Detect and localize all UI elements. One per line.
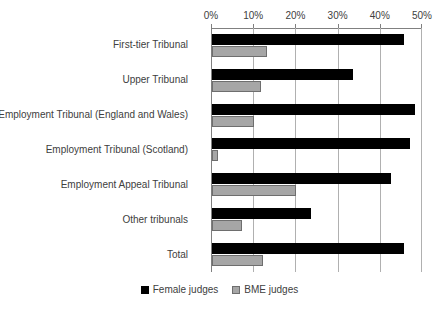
bar-group: Upper Tribunal — [211, 63, 422, 98]
x-axis-tick-50: 50% — [412, 10, 432, 22]
x-axis-tick-labels: 0% 10% 20% 30% 40% 50% — [211, 10, 422, 24]
bar-group: Total — [211, 237, 422, 272]
bar-female-judges — [212, 243, 404, 254]
bar-female-judges — [212, 173, 391, 184]
bar-bme-judges — [212, 46, 267, 57]
x-axis-tick-0: 0% — [204, 10, 218, 22]
x-axis-tick-20: 20% — [285, 10, 305, 22]
bar-female-judges — [212, 69, 353, 80]
bar-group: Other tribunals — [211, 202, 422, 237]
chart-legend: Female judges BME judges — [0, 284, 439, 296]
legend-swatch-icon-bme — [232, 286, 240, 294]
category-label: Employment Tribunal (Scotland) — [0, 144, 188, 156]
x-axis-tick-10: 10% — [243, 10, 263, 22]
category-label: Employment Appeal Tribunal — [0, 179, 188, 191]
x-axis-tick-40: 40% — [370, 10, 390, 22]
bar-bme-judges — [212, 116, 254, 127]
legend-label-bme: BME judges — [244, 284, 298, 296]
bar-bme-judges — [212, 220, 242, 231]
category-label: Employment Tribunal (England and Wales) — [0, 109, 188, 121]
bar-female-judges — [212, 138, 410, 149]
category-label: Total — [0, 249, 188, 261]
legend-item-female-judges: Female judges — [141, 284, 219, 296]
x-axis-tick-30: 30% — [328, 10, 348, 22]
bar-group: First-tier Tribunal — [211, 28, 422, 63]
bar-bme-judges — [212, 185, 296, 196]
bar-group: Employment Tribunal (Scotland) — [211, 133, 422, 168]
legend-swatch-icon-female — [141, 286, 149, 294]
bar-group: Employment Appeal Tribunal — [211, 167, 422, 202]
tribunal-diversity-bar-chart: 0% 10% 20% 30% 40% 50% First-tier Tribun… — [0, 0, 439, 312]
bar-bme-judges — [212, 150, 218, 161]
category-label: Upper Tribunal — [0, 74, 188, 86]
bar-female-judges — [212, 34, 404, 45]
category-label: Other tribunals — [0, 214, 188, 226]
category-label: First-tier Tribunal — [0, 39, 188, 51]
bar-female-judges — [212, 104, 415, 115]
legend-label-female: Female judges — [153, 284, 219, 296]
bar-bme-judges — [212, 255, 263, 266]
plot-area: First-tier Tribunal Upper Tribunal Emplo… — [211, 28, 422, 272]
bar-group: Employment Tribunal (England and Wales) — [211, 98, 422, 133]
legend-item-bme-judges: BME judges — [232, 284, 298, 296]
bar-female-judges — [212, 208, 311, 219]
bar-bme-judges — [212, 81, 261, 92]
